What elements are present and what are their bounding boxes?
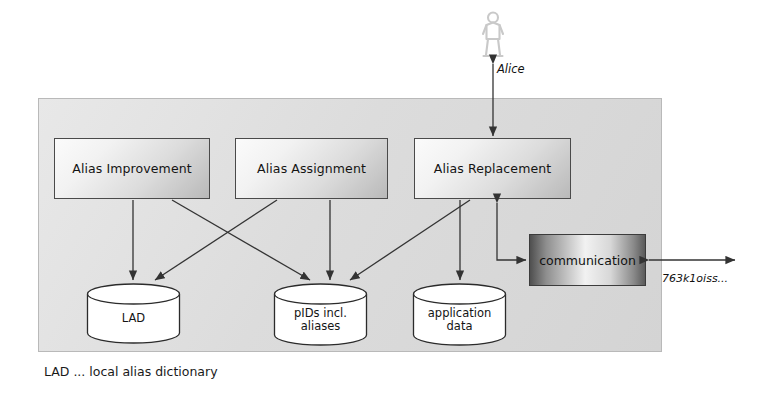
communication-label: communication [539,253,636,268]
process-label: Alias Replacement [434,161,551,176]
actor-label-alice: Alice [497,62,525,76]
process-label: Alias Assignment [257,161,366,176]
datastore-application-data[interactable]: application data [412,283,507,347]
process-box-alias-assignment[interactable]: Alias Assignment [235,138,388,199]
datastore-pids[interactable]: pIDs incl. aliases [273,283,368,347]
person-icon [476,10,510,58]
diagram-canvas: Alice Alias Improvement Alias Assignment… [0,0,768,396]
communication-box[interactable]: communication [529,234,646,286]
external-channel-label: 763k1oiss... [662,272,728,285]
legend-text: LAD ... local alias dictionary [44,364,218,379]
process-box-alias-improvement[interactable]: Alias Improvement [54,138,210,199]
datastore-lad[interactable]: LAD [86,283,181,344]
process-box-alias-replacement[interactable]: Alias Replacement [414,138,571,199]
process-label: Alias Improvement [72,161,191,176]
